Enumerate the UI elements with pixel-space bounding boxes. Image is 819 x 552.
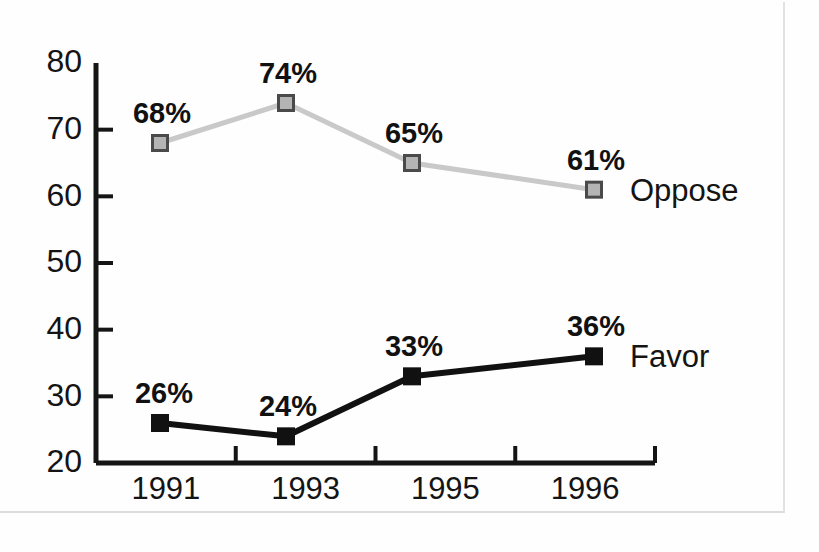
x-axis-tick-label: 1991 <box>131 471 200 506</box>
series-line-favor <box>160 356 594 436</box>
y-axis-tick-label: 80 <box>46 43 82 79</box>
data-point-marker[interactable] <box>586 348 602 364</box>
data-point-label: 36% <box>567 310 625 342</box>
x-axis-tick-label: 1993 <box>271 471 340 506</box>
series-lines-group <box>160 103 594 436</box>
data-point-label: 26% <box>135 377 193 409</box>
data-point-label: 74% <box>259 57 317 89</box>
y-axis-tick-label: 60 <box>46 177 82 213</box>
data-point-label: 61% <box>567 144 625 176</box>
data-point-marker[interactable] <box>404 368 420 384</box>
y-axis-tick-label: 40 <box>46 310 82 346</box>
series-point-labels-group: 68%74%65%61%26%24%33%36% <box>133 57 625 422</box>
data-point-label: 68% <box>133 97 191 129</box>
y-axis-tick-label: 50 <box>46 243 82 279</box>
y-axis-tick-label: 70 <box>46 110 82 146</box>
x-axis-tick-labels: 1991199319951996 <box>131 471 619 506</box>
chart-canvas: 20304050607080 1991199319951996 68%74%65… <box>0 0 819 552</box>
x-axis-tick-label: 1996 <box>551 471 620 506</box>
series-line-oppose <box>160 103 594 190</box>
data-point-marker[interactable] <box>405 156 420 171</box>
data-point-label: 33% <box>385 330 443 362</box>
series-name-label-oppose: Oppose <box>630 173 739 208</box>
data-point-marker[interactable] <box>279 96 294 111</box>
line-chart: 20304050607080 1991199319951996 68%74%65… <box>0 0 819 552</box>
data-point-marker[interactable] <box>152 415 168 431</box>
data-point-marker[interactable] <box>278 428 294 444</box>
data-point-label: 24% <box>259 390 317 422</box>
y-axis-ticks <box>96 130 113 397</box>
scanned-chart-page: 20304050607080 1991199319951996 68%74%65… <box>0 0 819 552</box>
y-axis-tick-label: 20 <box>46 443 82 479</box>
y-axis-tick-labels: 20304050607080 <box>46 43 82 479</box>
x-axis-tick-label: 1995 <box>411 471 480 506</box>
data-point-label: 65% <box>385 117 443 149</box>
series-name-labels-group: OpposeFavor <box>630 173 739 375</box>
x-axis-ticks <box>236 446 516 463</box>
data-point-marker[interactable] <box>153 136 168 151</box>
series-name-label-favor: Favor <box>630 339 709 374</box>
data-point-marker[interactable] <box>587 182 602 197</box>
y-axis-tick-label: 30 <box>46 377 82 413</box>
